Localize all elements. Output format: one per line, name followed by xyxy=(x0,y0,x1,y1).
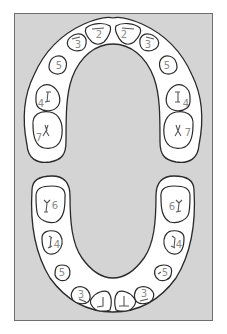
tooth-lower-right-premolar-5[interactable]: 5 xyxy=(155,265,172,281)
tooth-label: 5 xyxy=(164,60,170,71)
tooth-upper-left-premolar-4[interactable]: 4 xyxy=(36,85,60,111)
tooth-lower-right-molar[interactable]: 6 xyxy=(161,186,190,223)
tooth-label: 6 xyxy=(52,200,58,211)
tooth-label: 5 xyxy=(56,60,62,71)
tooth-lower-left-molar[interactable]: 6 xyxy=(36,186,65,223)
tooth-upper-left-premolar-5[interactable]: 5 xyxy=(49,56,66,74)
tooth-label: 4 xyxy=(183,98,189,109)
tooth-label: 6 xyxy=(169,201,175,212)
tooth-lower-left-premolar-4[interactable]: 4 xyxy=(42,231,62,254)
dental-chart: 7 4 5 3 2 2 3 5 4 xyxy=(0,0,227,334)
tooth-upper-right-premolar-4[interactable]: 4 xyxy=(166,85,190,111)
tooth-label: 7 xyxy=(185,127,191,138)
tooth-upper-right-premolar-5[interactable]: 5 xyxy=(160,56,177,74)
tooth-label: 4 xyxy=(54,239,60,250)
tooth-label: 2 xyxy=(96,29,102,40)
tooth-label: 2 xyxy=(121,29,127,40)
tooth-lower-right-canine[interactable]: 3 xyxy=(134,287,153,304)
tooth-label: 3 xyxy=(78,289,84,300)
tooth-upper-right-molar[interactable]: 7 xyxy=(164,112,193,149)
tooth-label: 4 xyxy=(38,98,44,109)
tooth-label: 4 xyxy=(176,239,182,250)
tooth-label: 3 xyxy=(145,39,151,50)
tooth-label: 3 xyxy=(75,39,81,50)
tooth-label: 5 xyxy=(162,267,168,278)
tooth-label: 5 xyxy=(59,267,65,278)
tooth-label: 7 xyxy=(36,132,42,143)
tooth-lower-right-premolar-4[interactable]: 4 xyxy=(164,231,184,254)
tooth-label: 3 xyxy=(141,288,147,299)
tooth-lower-left-canine[interactable]: 3 xyxy=(71,287,90,304)
tooth-upper-left-molar[interactable]: 7 xyxy=(33,112,62,149)
tooth-lower-left-premolar-5[interactable]: 5 xyxy=(55,265,70,281)
